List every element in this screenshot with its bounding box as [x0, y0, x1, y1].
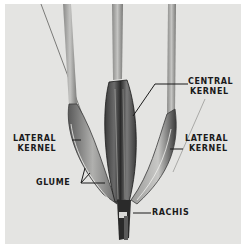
left-awn	[63, 4, 77, 106]
central-kernel-label: CENTRAL KERNEL	[188, 77, 233, 97]
central-kernel-label-line1: CENTRAL	[188, 77, 233, 87]
lateral-left-line1: LATERAL	[13, 134, 56, 144]
right-lateral-kernel	[131, 109, 176, 204]
lateral-kernel-right-label: LATERAL KERNEL	[185, 134, 228, 154]
glume-label: GLUME	[36, 178, 70, 188]
lateral-right-line2: KERNEL	[185, 144, 228, 154]
lateral-left-line2: KERNEL	[13, 144, 56, 154]
central-kernel-label-line2: KERNEL	[188, 87, 233, 97]
rachis-label: RACHIS	[152, 208, 189, 218]
spikelet-figure: CENTRAL KERNEL LATERAL KERNEL LATERAL KE…	[5, 4, 241, 244]
lateral-kernel-left-label: LATERAL KERNEL	[13, 134, 56, 154]
right-awn	[167, 4, 176, 114]
lateral-right-line1: LATERAL	[185, 134, 228, 144]
central-callout	[133, 84, 188, 116]
spikelet-illustration	[5, 4, 241, 244]
center-awn	[112, 4, 123, 80]
